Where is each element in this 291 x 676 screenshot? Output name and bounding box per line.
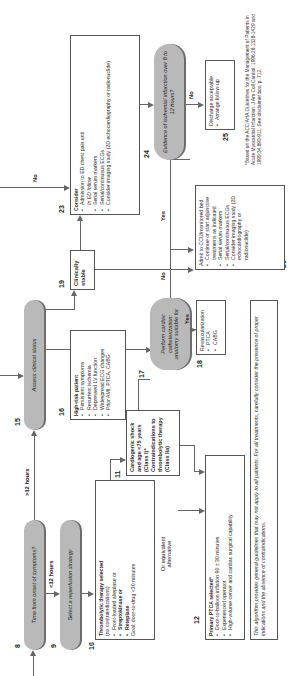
footnote-text: *Based on the ACC/AHA Guidelines for the… xyxy=(245,14,262,165)
connector xyxy=(80,218,81,250)
arrow-icon xyxy=(30,650,36,656)
node-15-assess-status: Assess clinical status xyxy=(24,300,44,430)
node-16-item: Prior AMI, PTCA, CABG xyxy=(105,334,111,410)
node-9-number: 9 xyxy=(50,644,57,648)
node-15-text: Assess clinical status xyxy=(31,339,38,392)
footnote: *Based on the ACC/AHA Guidelines for the… xyxy=(245,5,262,165)
connector xyxy=(170,250,171,298)
node-25-discharge: Discharge acceptable Arrange follow-up xyxy=(205,60,235,130)
node-11-text: Cardiogenic shock and age <75 years (Cla… xyxy=(129,417,170,472)
edge-label-no-top: No xyxy=(32,174,38,182)
node-24-text: Evidence of ischemia/ infarction over 8 … xyxy=(162,50,175,154)
node-8-number: 8 xyxy=(14,644,21,648)
arrow-icon xyxy=(188,247,194,253)
edge-label-yes-17: Yes xyxy=(184,314,190,324)
node-10-item: Reteplase xyxy=(124,484,130,630)
node-24-number: 24 xyxy=(143,150,150,158)
node-8-decision: Time from onset of symptoms? xyxy=(24,520,44,650)
connector xyxy=(194,445,195,472)
node-23-number: 23 xyxy=(58,205,65,213)
connector xyxy=(138,380,139,410)
arrow-icon xyxy=(71,290,77,296)
edge-label-gt12: >12 hours xyxy=(24,468,30,496)
connector xyxy=(138,379,150,380)
arrow-icon xyxy=(199,469,205,475)
edge-label-lt12: <12 hours xyxy=(48,560,54,588)
arrow-icon xyxy=(88,591,94,597)
node-15-number: 15 xyxy=(14,418,21,426)
node-12-primary-ptca: Primary PTCA selected* Door-to-balloon i… xyxy=(205,455,245,640)
connector xyxy=(34,432,35,520)
node-19-text: Clinically stable xyxy=(73,261,86,286)
connector xyxy=(95,269,190,270)
connector xyxy=(178,510,200,511)
node-20-item: Continue or start adjunctive treatments … xyxy=(204,189,217,260)
node-18-revascularization: Revascularization PTCA CABG xyxy=(196,300,226,355)
arrow-icon xyxy=(198,102,204,108)
connector xyxy=(180,445,194,446)
node-10-goal: Goal: door-to-drug <30 minutes xyxy=(130,484,136,636)
arrow-icon xyxy=(77,215,83,221)
node-12-item: High-volume center and cardiac surgical … xyxy=(227,459,233,630)
connector xyxy=(170,249,190,250)
node-19-clinically-stable: Clinically stable xyxy=(70,250,95,290)
node-16-high-risk: High-risk patient Persistent symptoms Re… xyxy=(70,330,126,420)
node-10-thrombolytic: Thrombolytic therapy selected (no contra… xyxy=(95,480,155,640)
node-23-item: Consider imaging study (2D echocardiogra… xyxy=(105,39,111,205)
edge-label-no-24: No xyxy=(188,91,194,99)
connector xyxy=(110,460,111,480)
arrow-icon xyxy=(188,267,194,273)
edge-label-yes-24: Yes xyxy=(160,211,166,221)
node-16-number: 16 xyxy=(58,408,65,416)
node-11-number: 11 xyxy=(114,471,121,478)
node-17-text: Perform cardiac catheterization: anatomy… xyxy=(160,304,180,364)
connector xyxy=(170,160,171,250)
node-11-cardiogenic-shock: Cardiogenic shock and age <75 years (Cla… xyxy=(126,410,180,476)
node-9-process: Select a reperfusion strategy xyxy=(60,520,80,650)
node-25-item: Arrange follow-up xyxy=(214,64,220,120)
connector xyxy=(0,187,66,188)
node-18-item: CABG xyxy=(212,304,218,345)
edge-label-or-alternative: Or equivalent alternative xyxy=(160,536,173,572)
node-17-number: 17 xyxy=(138,370,145,378)
connector xyxy=(44,309,74,310)
node-20-admit-ccu: Admit to CCU/monitored bed Continue or s… xyxy=(195,185,285,270)
node-8-text: Time from onset of symptoms? xyxy=(31,547,38,624)
flowchart-page: 8 Time from onset of symptoms? <12 hours… xyxy=(0,0,291,676)
disclaimer-text: This algorithm provides general guidelin… xyxy=(253,316,266,636)
node-20-item: Consider imaging study (2D echocardiogra… xyxy=(230,189,249,260)
node-12-number: 12 xyxy=(193,616,200,624)
node-17-catheterization: Perform cardiac catheterization: anatomy… xyxy=(150,298,190,370)
node-24-evidence-ischemia: Evidence of ischemia/ infarction over 8 … xyxy=(154,44,184,160)
connector xyxy=(0,375,20,376)
node-18-number: 18 xyxy=(196,360,203,368)
arrow-icon xyxy=(31,430,37,436)
node-9-text: Select a reperfusion strategy xyxy=(67,549,74,620)
disclaimer-box: This algorithm provides general guidelin… xyxy=(250,300,278,640)
node-25-number: 25 xyxy=(222,133,229,141)
edge-label-no-17: No xyxy=(160,272,166,280)
node-23-consider: Consider Admission to ED chest pain unit… xyxy=(70,35,140,215)
node-19-number: 19 xyxy=(58,280,65,288)
node-10-number: 10 xyxy=(88,642,95,650)
connector xyxy=(33,654,34,676)
